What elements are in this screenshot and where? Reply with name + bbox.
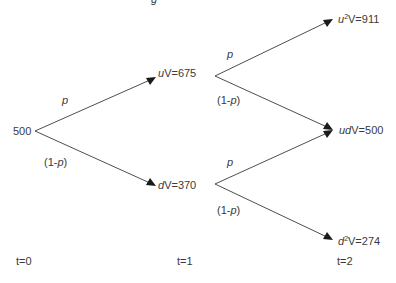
node-uu-label: u2V=911 [338,13,379,25]
edge-root-to-u [35,80,150,131]
branch-label-1-minus-p-u: (1-p) [217,94,240,106]
edges [35,19,333,240]
time-label-t1: t=1 [177,255,193,267]
branch-label-1-minus-p-d: (1-p) [217,204,240,216]
node-u-label: uV=675 [158,67,196,79]
branch-label-p-d: p [226,156,233,168]
time-label-t0: t=0 [16,255,32,267]
root-value: 500 [13,125,31,137]
node-dd-label: d2V=274 [338,235,380,247]
node-ud-label: udV=500 [339,124,383,136]
branch-label-1-minus-p-root: (1-p) [44,156,67,168]
time-label-t2: t=2 [337,255,353,267]
branch-label-p-root: p [61,94,68,106]
node-d-label: dV=370 [158,179,196,191]
binomial-tree-diagram: g 500 uV=675 dV=370 u2V=911 udV=500 d2V=… [0,0,396,283]
branch-label-p-u: p [226,48,233,60]
title-fragment: g [151,0,158,5]
